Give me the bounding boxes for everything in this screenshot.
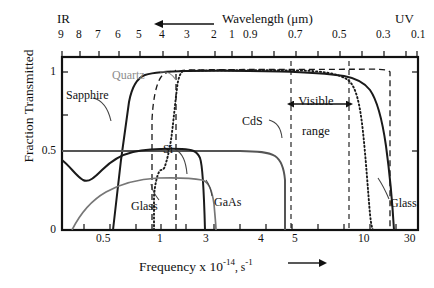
label-quartz: Quartz bbox=[112, 68, 145, 83]
bottom-tick-4: 4 bbox=[258, 232, 264, 244]
top-tick-8: 8 bbox=[76, 28, 82, 40]
uv-tag: UV bbox=[395, 11, 414, 27]
label-cds: CdS bbox=[242, 114, 263, 129]
x-axis-title: Frequency x 10-14, s-1 bbox=[139, 257, 253, 275]
label-sapphire: Sapphire bbox=[66, 88, 109, 103]
bottom-tick-10: 10 bbox=[358, 232, 370, 244]
top-tick-0p7: 0.7 bbox=[288, 28, 302, 40]
bottom-tick-1: 1 bbox=[157, 232, 163, 244]
y-tick-0: 0 bbox=[30, 223, 56, 235]
y-tick-1: 1 bbox=[30, 65, 56, 77]
top-tick-2: 2 bbox=[211, 28, 217, 40]
x-axis-title-unit-exp: -1 bbox=[245, 257, 253, 267]
x-axis-title-main: Frequency x 10 bbox=[139, 259, 223, 274]
bottom-tick-0p5: 0.5 bbox=[96, 232, 110, 244]
top-tick-5: 5 bbox=[136, 28, 142, 40]
y-tick-0p5: 0.5 bbox=[30, 144, 56, 156]
top-tick-1: 1 bbox=[229, 28, 235, 40]
ir-tag: IR bbox=[57, 11, 70, 27]
top-tick-9: 9 bbox=[58, 28, 64, 40]
top-tick-7: 7 bbox=[95, 28, 101, 40]
label-si: Si bbox=[163, 142, 173, 157]
label-gaas: GaAs bbox=[214, 195, 241, 210]
x-axis-title-unit: , s bbox=[235, 261, 245, 273]
top-tick-0p9: 0.9 bbox=[243, 28, 257, 40]
top-tick-0p5: 0.5 bbox=[332, 28, 346, 40]
transmission-spectrum-figure bbox=[0, 0, 434, 288]
label-visible-line2: range bbox=[276, 125, 356, 138]
bottom-tick-30: 30 bbox=[404, 232, 416, 244]
top-axis-title: Wavelength (μm) bbox=[222, 11, 313, 27]
top-tick-6: 6 bbox=[115, 28, 121, 40]
y-axis-title: Fraction Transmitted bbox=[21, 26, 37, 186]
bottom-tick-3: 3 bbox=[203, 232, 209, 244]
top-tick-0p1: 0.1 bbox=[411, 28, 425, 40]
label-visible-line1: Visible bbox=[276, 95, 356, 108]
x-axis-title-exp: -14 bbox=[223, 257, 235, 267]
top-tick-3: 3 bbox=[184, 28, 190, 40]
top-tick-4: 4 bbox=[159, 28, 165, 40]
label-glass-right: Glass bbox=[390, 196, 417, 211]
top-tick-0p3: 0.3 bbox=[376, 28, 390, 40]
label-glass-left: Glass bbox=[131, 199, 158, 214]
bottom-tick-5: 5 bbox=[292, 232, 298, 244]
